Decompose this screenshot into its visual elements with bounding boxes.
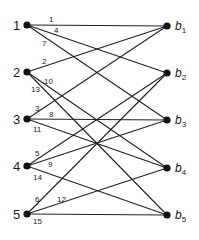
nodes-layer: 12345b1b2b3b4b5 [13,18,187,224]
right-node-label-subscript: 3 [182,120,187,129]
right-node-label-subscript: 5 [182,215,187,224]
right-node-label: b1 [175,19,187,35]
left-node-label: 4 [13,159,20,174]
edge-label: 13 [31,85,40,94]
edge-3-b1 [27,26,167,119]
edge-labels-layer: 147210133811591461215 [31,15,66,226]
edges-layer [27,25,167,215]
bipartite-graph-diagram: 147210133811591461215 12345b1b2b3b4b5 [0,0,199,240]
edge-label: 10 [44,77,53,86]
edge-1-b1 [27,25,167,26]
edge-label: 1 [49,15,54,24]
edge-label: 12 [57,195,66,204]
left-node-2 [23,68,30,75]
left-node-4 [23,162,30,169]
edge-5-b5 [27,214,167,215]
right-node-label: b2 [175,66,187,82]
right-node-label: b4 [175,161,187,177]
right-node-label-subscript: 1 [182,26,187,35]
left-node-label: 2 [13,65,20,80]
left-node-5 [23,210,30,217]
right-node-b1 [163,22,170,29]
left-node-3 [23,115,30,122]
right-node-label-subscript: 2 [182,73,187,82]
right-node-b3 [163,116,170,123]
right-node-b4 [163,164,170,171]
right-node-label-subscript: 4 [182,168,187,177]
edge-label: 2 [42,57,47,66]
edge-2-b1 [27,26,167,72]
edge-label: 15 [33,217,42,226]
right-node-b5 [163,211,170,218]
edge-label: 5 [35,149,40,158]
edge-label: 6 [35,195,40,204]
edge-label: 14 [33,173,42,182]
edge-label: 9 [48,160,53,169]
right-node-label: b5 [175,208,187,224]
edge-label: 3 [35,104,40,113]
left-node-label: 3 [13,112,20,127]
right-node-b2 [163,69,170,76]
left-node-label: 1 [13,18,20,33]
graph-canvas: 147210133811591461215 12345b1b2b3b4b5 [0,0,199,240]
edge-label: 8 [49,110,54,119]
edge-label: 7 [42,39,47,48]
edge-label: 4 [54,26,59,35]
edge-label: 11 [33,125,42,134]
left-node-1 [23,21,30,28]
right-node-label: b3 [175,113,187,129]
left-node-label: 5 [13,207,20,222]
